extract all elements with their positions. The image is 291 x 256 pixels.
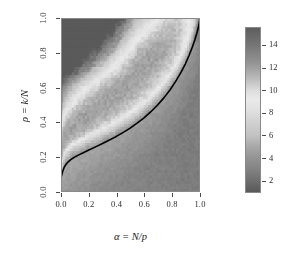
- colorbar-tick-label: 8: [269, 107, 273, 117]
- y-tick-mark: [56, 18, 60, 19]
- x-tick-label: 0.0: [46, 199, 76, 209]
- y-tick-label: 0.2: [38, 144, 48, 170]
- x-tick-label: 0.6: [129, 199, 159, 209]
- y-axis-label: ρ = k/N: [19, 90, 30, 122]
- colorbar-tick-label: 14: [269, 39, 278, 49]
- y-tick-label: 0.4: [38, 109, 48, 135]
- heatmap-plot-area: [61, 18, 200, 192]
- x-axis-label: α = N/p: [0, 231, 261, 242]
- colorbar-gradient: [246, 28, 260, 192]
- colorbar-tick-label: 2: [269, 175, 273, 185]
- y-tick-label: 0.0: [38, 179, 48, 205]
- colorbar-tick-mark: [262, 45, 266, 46]
- colorbar-tick-mark: [262, 68, 266, 69]
- y-tick-label: 0.8: [38, 40, 48, 66]
- x-tick-mark: [200, 193, 201, 197]
- y-tick-mark: [56, 53, 60, 54]
- colorbar-tick-mark: [262, 90, 266, 91]
- phase-transition-curve: [61, 18, 200, 192]
- colorbar-tick-mark: [262, 158, 266, 159]
- colorbar-tick-label: 6: [269, 130, 273, 140]
- y-tick-mark: [56, 122, 60, 123]
- y-tick-mark: [56, 192, 60, 193]
- y-axis-label-wrapper: ρ = k/N: [14, 36, 32, 176]
- x-tick-mark: [117, 193, 118, 197]
- colorbar-tick-mark: [262, 135, 266, 136]
- x-tick-mark: [89, 193, 90, 197]
- x-tick-mark: [172, 193, 173, 197]
- y-tick-mark: [56, 88, 60, 89]
- colorbar-tick-mark: [262, 113, 266, 114]
- x-tick-label: 1.0: [185, 199, 215, 209]
- chart-figure: 0.00.20.40.60.81.0 0.00.20.40.60.81.0 α …: [0, 0, 291, 256]
- x-tick-mark: [61, 193, 62, 197]
- curve-path: [61, 18, 200, 178]
- colorbar: [245, 27, 261, 193]
- x-tick-mark: [144, 193, 145, 197]
- y-tick-mark: [56, 157, 60, 158]
- y-tick-label: 1.0: [38, 5, 48, 31]
- colorbar-tick-label: 4: [269, 153, 273, 163]
- colorbar-tick-label: 12: [269, 62, 278, 72]
- x-tick-label: 0.8: [157, 199, 187, 209]
- colorbar-tick-label: 10: [269, 85, 278, 95]
- x-tick-label: 0.2: [74, 199, 104, 209]
- y-tick-label: 0.6: [38, 75, 48, 101]
- x-tick-label: 0.4: [102, 199, 132, 209]
- colorbar-tick-mark: [262, 181, 266, 182]
